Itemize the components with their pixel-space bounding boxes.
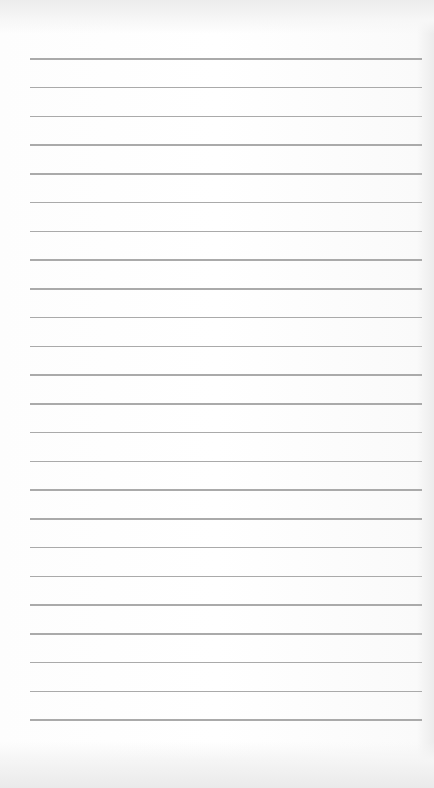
ruled-line (30, 662, 422, 664)
ruled-line (30, 116, 422, 118)
ruled-line (30, 691, 422, 693)
ruled-line (30, 576, 422, 578)
ruled-line (30, 231, 422, 233)
ruled-line (30, 87, 422, 89)
ruled-line (30, 317, 422, 319)
ruled-line (30, 719, 422, 721)
ruled-line (30, 173, 422, 175)
ruled-line (30, 604, 422, 606)
ruled-line (30, 202, 422, 204)
ruled-line (30, 633, 422, 635)
ruled-line (30, 489, 422, 491)
top-edge-shadow (0, 0, 434, 34)
ruled-line (30, 432, 422, 434)
ruled-line (30, 288, 422, 290)
ruled-line (30, 518, 422, 520)
ruled-line (30, 144, 422, 146)
ruled-line (30, 547, 422, 549)
ruled-line (30, 58, 422, 60)
ruled-line (30, 346, 422, 348)
ruled-line (30, 403, 422, 405)
ruled-line (30, 374, 422, 376)
ruled-line (30, 259, 422, 261)
bottom-edge-shadow (0, 742, 434, 788)
ruled-line (30, 461, 422, 463)
lined-paper-sheet (0, 0, 434, 788)
